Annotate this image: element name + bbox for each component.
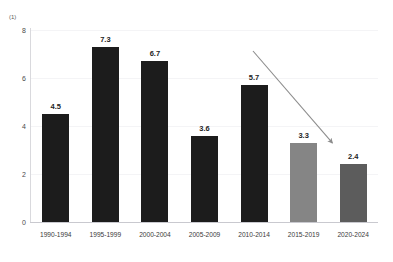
bar-value-label: 7.3: [87, 36, 123, 44]
x-axis-tick-label: 1990-1994: [30, 231, 82, 239]
gridline: [31, 78, 378, 79]
x-axis-tick-label: 2010-2014: [228, 231, 280, 239]
bar-chart: (1) 02468 4.57.36.73.65.73.32.4 1990-199…: [0, 0, 393, 262]
bar-value-label: 2.4: [335, 153, 371, 161]
x-axis-tick-label: 2015-2019: [278, 231, 330, 239]
bar-value-label: 3.6: [187, 125, 223, 133]
bar-value-label: 5.7: [236, 74, 272, 82]
bar-value-label: 6.7: [137, 50, 173, 58]
bar: [42, 114, 69, 222]
bar: [191, 136, 218, 222]
bar: [141, 61, 168, 222]
bar-value-label: 4.5: [38, 103, 74, 111]
bar-value-label: 3.3: [286, 132, 322, 140]
bar: [290, 143, 317, 222]
x-axis-tick-label: 2020-2024: [327, 231, 379, 239]
y-axis-tick-label: 8: [10, 27, 26, 34]
bar: [92, 47, 119, 222]
gridline: [31, 30, 378, 31]
x-axis-tick-label: 2005-2009: [179, 231, 231, 239]
x-axis-line: [30, 222, 378, 223]
bar: [340, 164, 367, 222]
y-axis-tick-label: 2: [10, 171, 26, 178]
y-axis-unit-label: (1): [9, 13, 16, 21]
y-axis-tick-label: 0: [10, 219, 26, 226]
x-axis-tick-label: 1995-1999: [79, 231, 131, 239]
bar: [241, 85, 268, 222]
x-axis-tick-label: 2000-2004: [129, 231, 181, 239]
chart-title: [95, 0, 310, 5]
y-axis-tick-label: 4: [10, 123, 26, 130]
y-axis-tick-label: 6: [10, 75, 26, 82]
